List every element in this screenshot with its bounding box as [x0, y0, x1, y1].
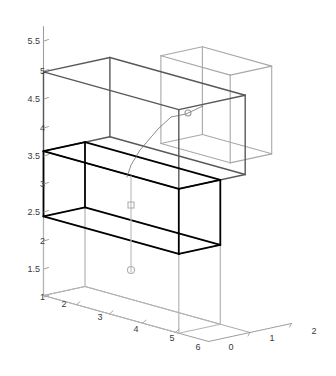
box-bottom-light-bottom-edge [44, 287, 86, 296]
z-tick-label-2: 4.5 [27, 94, 40, 104]
box-bottom-light-bottom-edge [85, 287, 220, 325]
z-tick-label-6: 2.5 [27, 207, 40, 217]
z-tick-label-0: 5.5 [27, 36, 40, 46]
box-topright-lightgray-top-edge [161, 47, 203, 56]
box-topright-lightgray-bottom-edge [230, 154, 272, 163]
x-tick-mark-2 [143, 320, 147, 323]
box-middle-black-bottom-edge [44, 216, 179, 254]
z-tick-mark-6 [44, 211, 49, 213]
box-topright-lightgray-top-edge [230, 66, 272, 75]
x-tick-mark-1 [110, 311, 114, 314]
box-topright-lightgray-bottom-edge [161, 135, 203, 144]
x-tick-label-2: 4 [133, 324, 138, 334]
x-tick-label-4: 6 [195, 342, 200, 352]
plot-root: 5.554.543.532.521.5123456012 [0, 0, 336, 376]
box-upper-darkgray-top-edge [44, 72, 179, 110]
y-tick-label-1: 1 [269, 333, 274, 343]
y-tick-label-0: 0 [228, 342, 233, 352]
x-tick-label-0: 2 [61, 299, 66, 309]
box-middle-black-bottom-edge [179, 245, 221, 254]
y-tick-label-2: 2 [311, 326, 316, 336]
box-topright-lightgray-top-edge [161, 56, 230, 75]
x-tick-label-3: 5 [169, 333, 174, 343]
z-tick-mark-8 [44, 268, 49, 270]
box-middle-black-top-edge [44, 151, 179, 189]
box-middle-black-bottom-edge [44, 207, 86, 216]
box-middle-black-top-edge [179, 180, 221, 189]
box-middle-black-bottom-edge [85, 207, 220, 245]
z-tick-mark-0 [44, 40, 49, 42]
box-upper-darkgray-top-edge [179, 95, 245, 109]
box-middle-black-top-edge [44, 142, 86, 151]
box-upper-darkgray-top-edge [44, 58, 110, 72]
connector-path [127, 106, 203, 177]
3d-plot-canvas: 5.554.543.532.521.5123456012 [0, 0, 336, 376]
box-middle-black-top-edge [85, 142, 220, 180]
box-topright-lightgray-bottom-edge [202, 135, 271, 154]
x-tick-label-1: 3 [97, 312, 102, 322]
z-tick-label-8: 1.5 [27, 264, 40, 274]
box-topright-lightgray-top-edge [202, 47, 271, 66]
z-tick-mark-4 [44, 155, 49, 157]
z-tick-label-4: 3.5 [27, 151, 40, 161]
box-bottom-light-bottom-edge [179, 324, 221, 333]
x-tick-mark-0 [77, 302, 81, 305]
z-tick-mark-2 [44, 98, 49, 100]
box-upper-darkgray-top-edge [110, 58, 245, 96]
